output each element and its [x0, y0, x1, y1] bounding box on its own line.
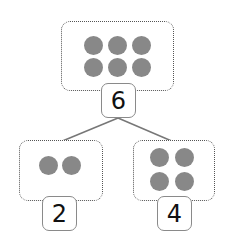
line-to-left-part — [60, 118, 118, 142]
whole-dots-box — [61, 21, 174, 91]
dot — [108, 36, 127, 55]
line-to-right-part — [118, 118, 174, 142]
dot — [132, 36, 151, 55]
dot — [108, 58, 127, 77]
right-part-dots-box — [133, 140, 215, 201]
dot — [84, 58, 103, 77]
dot — [150, 172, 169, 191]
whole-number-box: 6 — [101, 83, 136, 118]
dot — [84, 36, 103, 55]
right-part-number-box: 4 — [157, 196, 192, 231]
dot — [62, 156, 81, 175]
dot — [132, 58, 151, 77]
dot — [150, 148, 169, 167]
left-part-number-box: 2 — [42, 196, 77, 231]
dot — [175, 172, 194, 191]
left-part-dots-box — [19, 140, 103, 201]
dot — [39, 156, 58, 175]
dot — [175, 148, 194, 167]
